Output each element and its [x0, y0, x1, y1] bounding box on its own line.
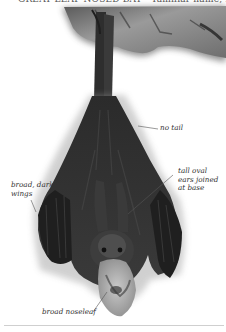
- rock: [62, 6, 226, 62]
- bottom-divider: [4, 325, 224, 326]
- label-no-tail: no tail: [160, 124, 183, 133]
- label-no-tail-text: no tail: [160, 123, 183, 132]
- label-ears: tall oval ears joined at base: [178, 167, 218, 193]
- label-ears-line-3: at base: [178, 184, 218, 193]
- label-noseleaf-text: broad noseleaf: [42, 307, 96, 316]
- field-guide-page: GREAT LEAF-NOSED BAT · Tamiliar name, Ha…: [0, 0, 226, 332]
- label-wings-line-2: wings: [11, 190, 54, 199]
- label-wings: broad, dark wings: [11, 181, 54, 198]
- label-noseleaf: broad noseleaf: [42, 308, 96, 317]
